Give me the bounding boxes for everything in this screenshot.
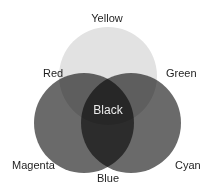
label-cyan: Cyan xyxy=(175,159,201,171)
circles xyxy=(34,27,181,173)
label-black: Black xyxy=(93,103,123,117)
label-red: Red xyxy=(43,67,63,79)
circle-cyan xyxy=(81,73,181,173)
label-magenta: Magenta xyxy=(12,159,56,171)
label-blue: Blue xyxy=(97,172,119,184)
venn-diagram: Yellow Red Green Black Magenta Cyan Blue xyxy=(0,0,212,194)
label-green: Green xyxy=(166,67,197,79)
label-yellow: Yellow xyxy=(91,12,122,24)
